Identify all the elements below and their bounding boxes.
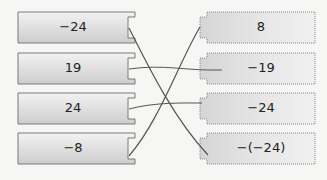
- connection-line-4: [129, 27, 200, 156]
- right-item-label: −19: [207, 53, 315, 83]
- left-item-label: 19: [18, 53, 128, 83]
- left-item-label: −24: [18, 12, 128, 42]
- left-item-label: −8: [18, 133, 128, 163]
- right-item-label: −24: [207, 93, 315, 123]
- connection-line-3: [129, 103, 202, 109]
- left-item-label: 24: [18, 93, 128, 123]
- right-item-label: 8: [207, 12, 315, 42]
- right-item-label: −(−24): [207, 133, 315, 163]
- matching-diagram: −24 19 24 −8 8 −19 −24 −(−24): [0, 0, 327, 180]
